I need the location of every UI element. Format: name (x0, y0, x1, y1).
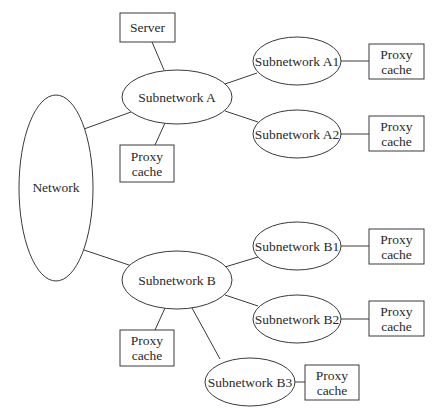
server-node: Server (120, 13, 175, 42)
proxy-cache-a2-node: Proxy cache (369, 116, 424, 151)
proxy-cache-b1-line1: Proxy (380, 232, 413, 247)
network-node: Network (19, 95, 93, 281)
network-diagram: Network Server Subnetwork A Proxy cache … (0, 0, 447, 420)
edge-subnet-a-subnet-a2 (225, 111, 258, 122)
proxy-cache-a1-node: Proxy cache (369, 44, 424, 79)
edge-network-subnet-a (84, 112, 131, 129)
subnetwork-a-label: Subnetwork A (138, 90, 216, 105)
proxy-cache-b2-line2: cache (381, 319, 412, 334)
subnetwork-b2-label: Subnetwork B2 (255, 312, 339, 327)
proxy-cache-a-line2: cache (132, 164, 163, 179)
subnetwork-b1-node: Subnetwork B1 (253, 222, 341, 270)
network-label: Network (32, 180, 79, 195)
proxy-cache-b2-node: Proxy cache (369, 301, 424, 336)
proxy-cache-a1-line1: Proxy (380, 47, 413, 62)
edge-network-subnet-b (84, 250, 132, 266)
edge-subnet-b-subnet-b3 (192, 308, 220, 359)
proxy-cache-b3-line2: cache (317, 383, 348, 398)
edge-subnet-a-proxy-a (155, 123, 165, 145)
proxy-cache-a-line1: Proxy (131, 149, 164, 164)
proxy-cache-b-line1: Proxy (131, 333, 164, 348)
proxy-cache-b3-node: Proxy cache (305, 365, 359, 400)
subnetwork-b1-label: Subnetwork B1 (255, 239, 339, 254)
edge-subnet-a-subnet-a1 (225, 73, 257, 84)
proxy-cache-b2-line1: Proxy (380, 304, 413, 319)
proxy-cache-b-node: Proxy cache (120, 330, 174, 366)
server-label: Server (130, 20, 166, 35)
subnetwork-a2-label: Subnetwork A2 (255, 127, 339, 142)
subnetwork-a1-label: Subnetwork A1 (255, 54, 339, 69)
subnetwork-a-node: Subnetwork A (122, 70, 232, 124)
proxy-cache-a1-line2: cache (381, 62, 412, 77)
subnetwork-a1-node: Subnetwork A1 (253, 37, 341, 85)
edge-subnet-b-proxy-b (155, 308, 165, 330)
edge-subnet-b-subnet-b1 (225, 257, 258, 267)
proxy-cache-b1-node: Proxy cache (369, 229, 424, 264)
edge-subnet-b-subnet-b2 (225, 295, 258, 306)
subnetwork-b-node: Subnetwork B (122, 251, 232, 309)
proxy-cache-b1-line2: cache (381, 247, 412, 262)
subnetwork-b-label: Subnetwork B (138, 273, 216, 288)
subnetwork-b2-node: Subnetwork B2 (253, 295, 341, 343)
proxy-cache-b3-line1: Proxy (316, 368, 349, 383)
subnetwork-a2-node: Subnetwork A2 (253, 110, 341, 158)
proxy-cache-a2-line2: cache (381, 134, 412, 149)
subnetwork-b3-node: Subnetwork B3 (205, 358, 295, 406)
proxy-cache-a2-line1: Proxy (380, 119, 413, 134)
proxy-cache-a-node: Proxy cache (120, 145, 174, 182)
proxy-cache-b-line2: cache (132, 348, 163, 363)
edge-server-subnet-a (152, 42, 164, 70)
subnetwork-b3-label: Subnetwork B3 (208, 375, 293, 390)
